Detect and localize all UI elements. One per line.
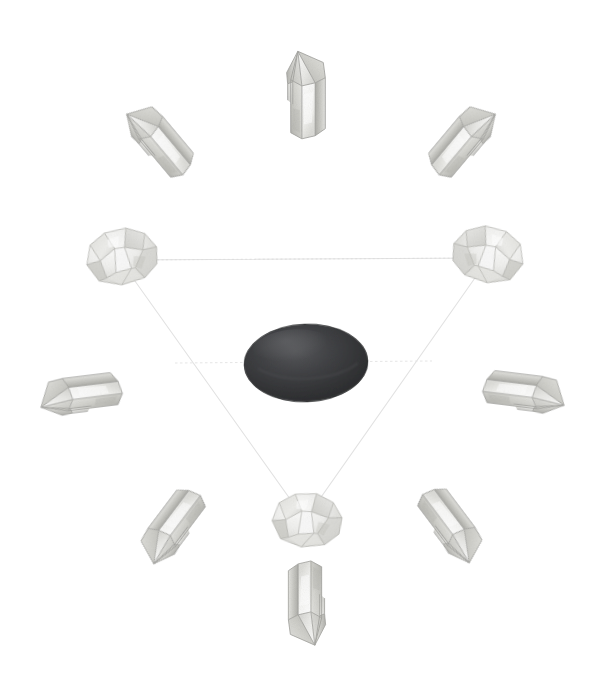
center-stone [243,322,370,404]
tumbled-stone-top-left[interactable]: Rough quartz chunk — triangle vertex top… [64,202,176,314]
crystal-point-west[interactable]: Clear quartz point — west [25,341,132,448]
tumbled-stone-bottom[interactable]: Rough quartz chunk — triangle vertex bot… [253,469,356,572]
crystal-grid-canvas: Crystal Grid Layout [0,0,611,698]
tumbled-stone-top-right[interactable]: Rough quartz chunk — triangle vertex top… [432,198,547,313]
crystal-point-north[interactable]: Clear quartz point — north [256,41,358,143]
crystal-point-east[interactable]: Clear quartz point — east [474,339,581,446]
